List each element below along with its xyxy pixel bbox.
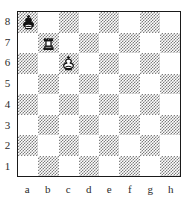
file-label-row: a b c d e f g h — [17, 180, 181, 198]
square-d5[interactable] — [79, 74, 99, 95]
rank-label-column: 8 7 6 5 4 3 2 1 — [0, 11, 15, 177]
rank-label: 7 — [0, 32, 15, 53]
square-c7[interactable] — [59, 33, 79, 54]
square-g3[interactable] — [140, 115, 160, 136]
square-e1[interactable] — [99, 156, 119, 177]
square-e5[interactable] — [99, 74, 119, 95]
rank-label: 3 — [0, 115, 15, 136]
file-label: a — [17, 180, 38, 198]
square-a7[interactable] — [18, 33, 38, 54]
square-d1[interactable] — [79, 156, 99, 177]
file-label: e — [99, 180, 120, 198]
square-f7[interactable] — [119, 33, 139, 54]
square-f2[interactable] — [119, 135, 139, 156]
square-h1[interactable] — [160, 156, 180, 177]
file-label: h — [161, 180, 182, 198]
rank-label: 2 — [0, 136, 15, 157]
square-d6[interactable] — [79, 53, 99, 74]
white-rook-icon — [38, 33, 58, 54]
square-b1[interactable] — [38, 156, 58, 177]
square-d3[interactable] — [79, 115, 99, 136]
square-c2[interactable] — [59, 135, 79, 156]
square-c5[interactable] — [59, 74, 79, 95]
square-c4[interactable] — [59, 94, 79, 115]
file-label: f — [120, 180, 141, 198]
square-d4[interactable] — [79, 94, 99, 115]
rank-label: 5 — [0, 73, 15, 94]
square-f5[interactable] — [119, 74, 139, 95]
square-d8[interactable] — [79, 12, 99, 33]
square-e4[interactable] — [99, 94, 119, 115]
square-d2[interactable] — [79, 135, 99, 156]
square-e2[interactable] — [99, 135, 119, 156]
white-king-icon — [59, 53, 79, 74]
square-c1[interactable] — [59, 156, 79, 177]
square-g6[interactable] — [140, 53, 160, 74]
square-a4[interactable] — [18, 94, 38, 115]
square-c8[interactable] — [59, 12, 79, 33]
square-a8[interactable] — [18, 12, 38, 33]
square-e8[interactable] — [99, 12, 119, 33]
square-f3[interactable] — [119, 115, 139, 136]
square-f8[interactable] — [119, 12, 139, 33]
square-b5[interactable] — [38, 74, 58, 95]
square-c6[interactable] — [59, 53, 79, 74]
square-h5[interactable] — [160, 74, 180, 95]
file-label: g — [140, 180, 161, 198]
square-g7[interactable] — [140, 33, 160, 54]
rank-label: 8 — [0, 11, 15, 32]
square-a1[interactable] — [18, 156, 38, 177]
square-a5[interactable] — [18, 74, 38, 95]
square-b2[interactable] — [38, 135, 58, 156]
square-a2[interactable] — [18, 135, 38, 156]
square-b8[interactable] — [38, 12, 58, 33]
square-e6[interactable] — [99, 53, 119, 74]
square-h2[interactable] — [160, 135, 180, 156]
square-g5[interactable] — [140, 74, 160, 95]
square-g1[interactable] — [140, 156, 160, 177]
square-f1[interactable] — [119, 156, 139, 177]
square-g2[interactable] — [140, 135, 160, 156]
square-h8[interactable] — [160, 12, 180, 33]
square-h7[interactable] — [160, 33, 180, 54]
file-label: d — [79, 180, 100, 198]
square-h4[interactable] — [160, 94, 180, 115]
rank-label: 1 — [0, 156, 15, 177]
square-h6[interactable] — [160, 53, 180, 74]
chess-board-figure: 8 7 6 5 4 3 2 1 a b c d e f g h — [0, 0, 192, 210]
rank-label: 4 — [0, 94, 15, 115]
square-a3[interactable] — [18, 115, 38, 136]
square-b6[interactable] — [38, 53, 58, 74]
square-c3[interactable] — [59, 115, 79, 136]
square-f6[interactable] — [119, 53, 139, 74]
black-king-icon — [18, 12, 38, 33]
square-b7[interactable] — [38, 33, 58, 54]
square-g4[interactable] — [140, 94, 160, 115]
square-g8[interactable] — [140, 12, 160, 33]
square-d7[interactable] — [79, 33, 99, 54]
square-a6[interactable] — [18, 53, 38, 74]
file-label: b — [38, 180, 59, 198]
square-f4[interactable] — [119, 94, 139, 115]
rank-label: 6 — [0, 53, 15, 74]
square-b3[interactable] — [38, 115, 58, 136]
chessboard-grid[interactable] — [17, 11, 181, 177]
square-h3[interactable] — [160, 115, 180, 136]
file-label: c — [58, 180, 79, 198]
square-b4[interactable] — [38, 94, 58, 115]
square-e7[interactable] — [99, 33, 119, 54]
square-e3[interactable] — [99, 115, 119, 136]
